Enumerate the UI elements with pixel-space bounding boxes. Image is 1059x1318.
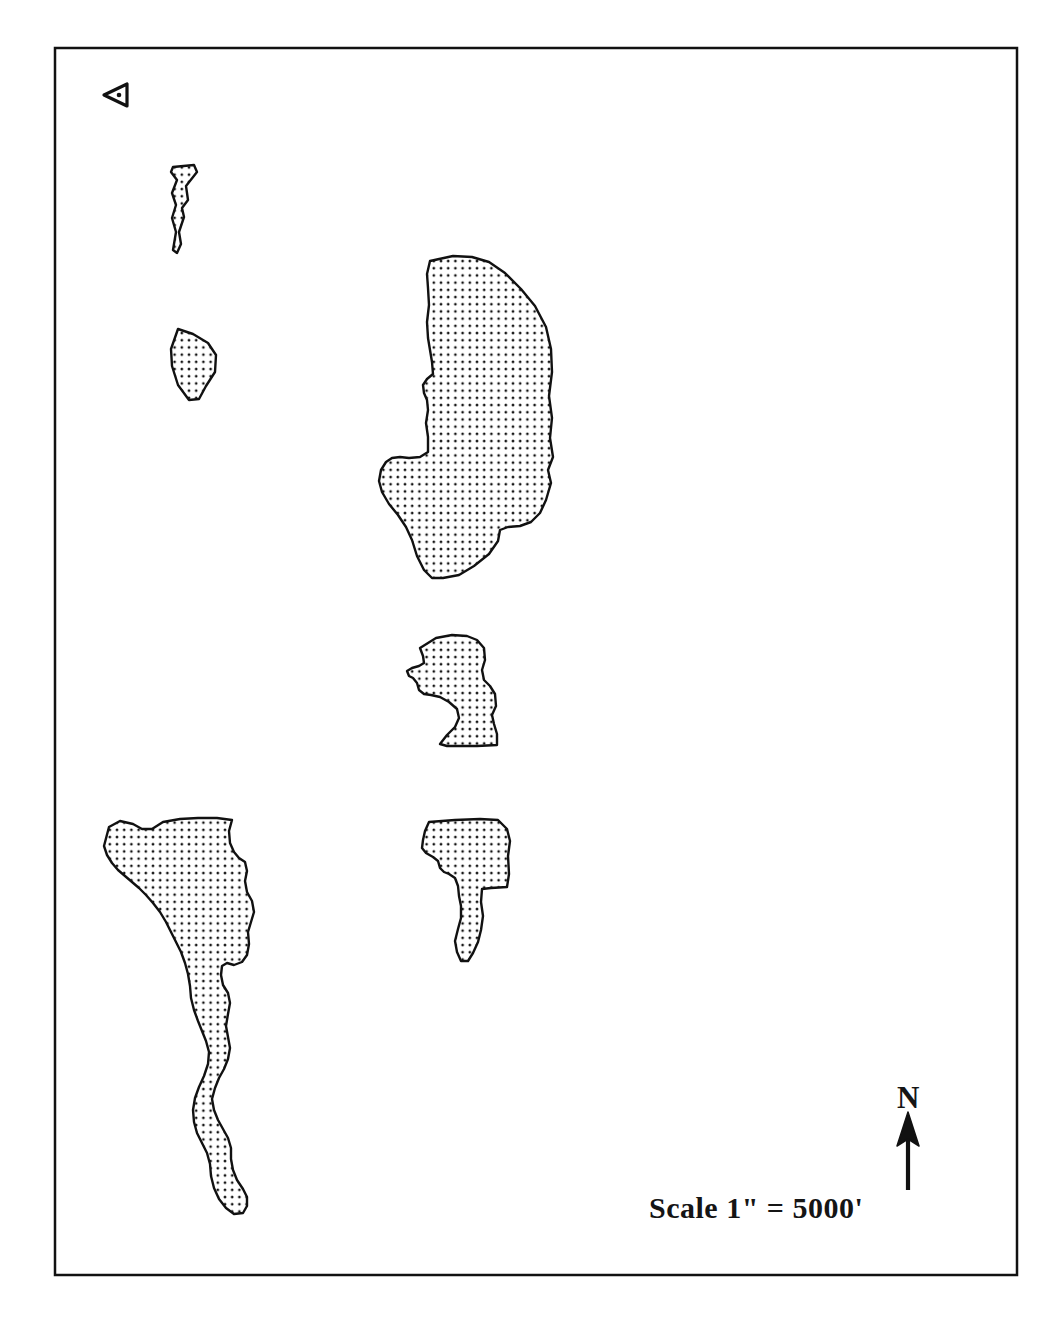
map-drawing: [0, 0, 1059, 1318]
map-polygon: [104, 818, 254, 1214]
map-polygon: [171, 329, 216, 400]
map-polygon: [407, 635, 497, 746]
map-polygon: [379, 256, 553, 578]
polygon-layer: [104, 165, 553, 1214]
triangle-left-marker-icon: [104, 84, 127, 106]
scale-label: Scale 1" = 5000': [649, 1193, 863, 1223]
map-polygon: [171, 165, 197, 253]
map-canvas: N Scale 1" = 5000': [0, 0, 1059, 1318]
north-arrow-label: N: [897, 1082, 919, 1113]
map-polygon: [422, 819, 510, 961]
north-arrow-icon: [897, 1112, 919, 1190]
